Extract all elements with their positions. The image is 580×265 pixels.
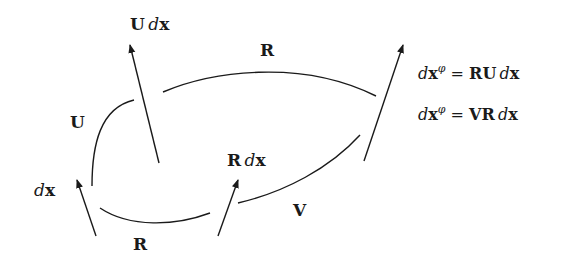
label-transform-u: U bbox=[70, 114, 85, 131]
diagram-canvas bbox=[0, 0, 580, 265]
label-dx: dx bbox=[34, 182, 55, 199]
label-transform-r-top: R bbox=[260, 42, 274, 59]
label-transform-r-bottom: R bbox=[133, 236, 147, 253]
vector-dx-phi-arrow bbox=[364, 45, 403, 161]
equation-vr: dxφ = VR dx bbox=[418, 104, 518, 123]
arc-r-top bbox=[163, 72, 376, 96]
vector-r-dx-arrow bbox=[218, 180, 238, 236]
label-r-dx: R dx bbox=[227, 152, 266, 169]
polar-decomposition-diagram: dx U dx R dx U R R V dxφ = RU dx dxφ = V… bbox=[0, 0, 580, 265]
label-u-dx: U dx bbox=[130, 16, 169, 33]
vector-dx-arrow bbox=[77, 180, 96, 236]
arc-u-left bbox=[92, 100, 134, 186]
arc-r-bottom bbox=[100, 208, 210, 223]
vector-u-dx-arrow bbox=[130, 45, 159, 163]
label-transform-v: V bbox=[293, 202, 306, 219]
equation-ru: dxφ = RU dx bbox=[418, 63, 519, 82]
